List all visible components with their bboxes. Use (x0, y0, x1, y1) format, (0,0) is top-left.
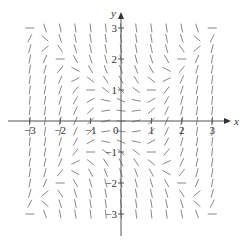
slope-segment (104, 168, 107, 176)
slope-segment (164, 148, 170, 155)
slope-segment (90, 44, 92, 53)
slope-segment (71, 160, 79, 164)
slope-segment (59, 106, 61, 115)
slope-segment (134, 159, 139, 167)
slope-segment (181, 137, 183, 146)
slope-segment (74, 44, 77, 53)
slope-segment (59, 86, 62, 95)
slope-segment (164, 138, 168, 146)
slope-segment (29, 158, 30, 167)
slope-segment (194, 46, 201, 52)
slope-segment (195, 210, 198, 218)
slope-segment (59, 24, 61, 33)
y-tick-label: −2 (105, 177, 117, 189)
slope-segment (180, 76, 184, 84)
slope-segment (43, 210, 46, 218)
slope-segment (211, 179, 213, 188)
slope-segment (135, 55, 137, 64)
slope-segment (73, 148, 79, 155)
slope-segment (135, 189, 137, 198)
slope-segment (28, 34, 32, 42)
slope-segment (212, 86, 213, 95)
slope-segment (196, 106, 197, 115)
slope-segment (163, 160, 171, 164)
slope-segment (44, 127, 45, 136)
slope-segment (101, 110, 110, 111)
slope-segment (179, 190, 184, 197)
slope-segment (179, 169, 185, 176)
origin-label: 0 (113, 124, 119, 136)
slope-segment (150, 55, 153, 64)
slope-segment (210, 200, 214, 208)
slope-segment (212, 148, 213, 157)
slope-segment (57, 169, 63, 176)
slope-segment (87, 160, 94, 166)
slope-segment (151, 210, 152, 219)
slope-segment (44, 75, 46, 84)
slope-segment (87, 77, 94, 83)
slope-segment (59, 137, 61, 146)
slope-segment (75, 34, 77, 43)
slope-segment (44, 168, 46, 177)
x-tick-label: 3 (209, 124, 215, 136)
slope-segment (211, 44, 213, 53)
slope-segment (196, 158, 198, 167)
slope-segment (195, 55, 199, 63)
slope-segment (180, 148, 183, 157)
slope-segment (43, 55, 47, 63)
slope-segment (75, 199, 77, 208)
slope-segment (42, 35, 49, 41)
slope-segment (212, 158, 213, 167)
x-axis-label: x (233, 115, 239, 127)
slope-segment (74, 107, 78, 115)
slope-segment (136, 34, 137, 43)
slope-segment (181, 106, 183, 115)
slope-segment (196, 168, 198, 177)
y-tick-label: −1 (105, 146, 117, 158)
x-tick-label: 2 (179, 124, 185, 136)
slope-segment (166, 210, 167, 219)
slope-segment (29, 65, 30, 74)
y-tick-label: 2 (112, 53, 118, 65)
slope-segment (180, 34, 183, 43)
slope-segment (136, 24, 137, 33)
y-tick-label: 3 (112, 22, 118, 34)
slope-segment (163, 171, 171, 175)
slope-segment (101, 131, 110, 132)
slope-segment (166, 199, 168, 208)
slope-segment (179, 45, 184, 52)
slope-segment (210, 34, 214, 42)
slope-segment (132, 110, 141, 111)
slope-segment (133, 149, 140, 154)
slope-segment (150, 179, 153, 188)
slope-segment (148, 160, 155, 166)
slope-segment (136, 210, 137, 219)
slope-segment (150, 44, 152, 53)
slope-segment (151, 24, 152, 33)
slope-segment (195, 179, 199, 187)
slope-field-chart: −3−2−1123−3−2−1123 x y 0 (0, 0, 245, 242)
slope-segment (73, 86, 79, 93)
x-axis-arrow-icon (224, 118, 231, 124)
x-tick-label: −3 (24, 124, 36, 136)
slope-segment (29, 148, 30, 157)
slope-segment (88, 65, 92, 73)
slope-segment (73, 138, 77, 146)
slope-segment (181, 96, 183, 105)
slope-segment (181, 210, 183, 219)
slope-segment (42, 201, 49, 207)
slope-segment (166, 24, 167, 33)
slope-segment (103, 159, 108, 167)
slope-segment (73, 179, 77, 187)
slope-segment (165, 189, 168, 198)
slope-segment (90, 24, 91, 33)
slope-segment (29, 179, 31, 188)
slope-segment (29, 75, 30, 84)
slope-segment (103, 76, 108, 84)
slope-segment (179, 66, 185, 73)
slope-segment (44, 137, 45, 146)
slope-segment (104, 65, 107, 73)
slope-segment (105, 44, 107, 53)
slope-segment (90, 210, 91, 219)
slope-segment (211, 55, 213, 64)
